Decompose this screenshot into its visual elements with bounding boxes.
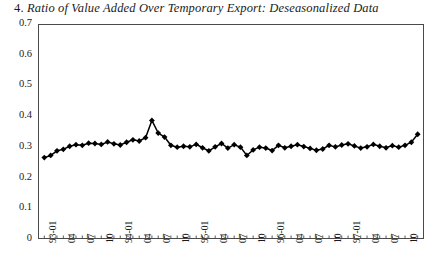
data-point-marker bbox=[41, 155, 47, 161]
data-point-marker bbox=[67, 143, 73, 149]
x-axis-tick-label: 97-01 bbox=[352, 221, 362, 243]
y-axis-tick-label: 0.7 bbox=[0, 17, 32, 28]
x-axis-tick-label: 96-01 bbox=[276, 221, 286, 243]
data-point-marker bbox=[333, 144, 339, 150]
data-point-marker bbox=[187, 144, 193, 150]
data-point-marker bbox=[200, 145, 206, 151]
chart-canvas bbox=[0, 0, 439, 267]
data-point-marker bbox=[105, 139, 111, 145]
y-axis-tick-label: 0 bbox=[0, 232, 32, 243]
data-point-marker bbox=[301, 144, 307, 150]
data-point-marker bbox=[402, 142, 408, 148]
data-point-marker bbox=[60, 146, 66, 152]
data-point-marker bbox=[383, 145, 389, 151]
data-point-marker bbox=[111, 141, 117, 147]
y-axis-tick-label: 0.5 bbox=[0, 78, 32, 89]
x-axis-tick-label: 04 bbox=[371, 234, 381, 244]
data-point-marker bbox=[193, 142, 199, 148]
data-point-marker bbox=[263, 145, 269, 151]
figure-container: 4. Ratio of Value Added Over Temporary E… bbox=[0, 0, 439, 267]
y-axis-tick-label: 0.1 bbox=[0, 201, 32, 212]
x-axis-tick-label: 95-01 bbox=[200, 221, 210, 243]
data-point-marker bbox=[92, 141, 98, 147]
x-axis-tick-label: 07 bbox=[390, 234, 400, 244]
data-point-marker bbox=[124, 139, 130, 145]
x-axis-tick-label: 04 bbox=[295, 234, 305, 244]
x-axis-tick-label: 10 bbox=[105, 234, 115, 244]
data-point-marker bbox=[370, 142, 376, 148]
data-point-marker bbox=[295, 142, 301, 148]
data-point-marker bbox=[351, 143, 357, 149]
x-axis-tick-label: 93-01 bbox=[48, 221, 58, 243]
data-point-marker bbox=[396, 144, 402, 150]
data-point-marker bbox=[136, 138, 142, 144]
x-axis-tick-label: 10 bbox=[409, 234, 419, 244]
x-axis-tick-label: 07 bbox=[238, 234, 248, 244]
x-axis-tick-label: 07 bbox=[314, 234, 324, 244]
data-point-marker bbox=[282, 145, 288, 151]
x-axis-tick-label: 04 bbox=[219, 234, 229, 244]
data-point-marker bbox=[377, 143, 383, 149]
data-series-line bbox=[44, 120, 417, 157]
y-axis-tick-label: 0.3 bbox=[0, 140, 32, 151]
data-point-marker bbox=[79, 142, 85, 148]
y-axis-tick-label: 0.6 bbox=[0, 48, 32, 59]
y-axis-tick-label: 0.4 bbox=[0, 109, 32, 120]
data-point-marker bbox=[314, 147, 320, 153]
data-point-marker bbox=[231, 142, 237, 148]
data-point-marker bbox=[345, 141, 351, 147]
data-point-marker bbox=[288, 143, 294, 149]
data-point-marker bbox=[358, 145, 364, 151]
data-point-marker bbox=[339, 142, 345, 148]
data-point-marker bbox=[86, 140, 92, 146]
data-point-marker bbox=[364, 144, 370, 150]
data-point-marker bbox=[389, 143, 395, 149]
x-axis-tick-label: 07 bbox=[162, 234, 172, 244]
x-axis-tick-label: 10 bbox=[257, 234, 267, 244]
x-axis-tick-label: 10 bbox=[333, 234, 343, 244]
x-axis-tick-label: 07 bbox=[86, 234, 96, 244]
data-point-marker bbox=[307, 145, 313, 151]
data-point-marker bbox=[143, 135, 149, 141]
x-axis-tick-label: 10 bbox=[181, 234, 191, 244]
x-axis-tick-label: 04 bbox=[143, 234, 153, 244]
data-point-marker bbox=[174, 144, 180, 150]
data-point-marker bbox=[73, 142, 79, 148]
data-point-marker bbox=[98, 142, 104, 148]
data-point-marker bbox=[130, 137, 136, 143]
data-point-marker bbox=[117, 142, 123, 148]
data-point-marker bbox=[149, 118, 155, 124]
y-axis-tick-label: 0.2 bbox=[0, 171, 32, 182]
x-axis-tick-label: 94-01 bbox=[124, 221, 134, 243]
x-axis-tick-label: 04 bbox=[67, 234, 77, 244]
data-point-marker bbox=[181, 143, 187, 149]
data-point-marker bbox=[257, 144, 263, 150]
